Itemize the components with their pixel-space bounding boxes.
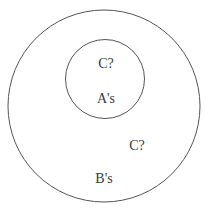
inner-unknown-label: C?	[98, 56, 114, 71]
outer-set-label: B's	[95, 171, 112, 186]
inner-circle-a	[66, 40, 145, 119]
inner-set-label: A's	[97, 91, 115, 106]
euler-diagram: C? A's C? B's	[0, 0, 205, 213]
outer-unknown-label: C?	[129, 138, 145, 153]
